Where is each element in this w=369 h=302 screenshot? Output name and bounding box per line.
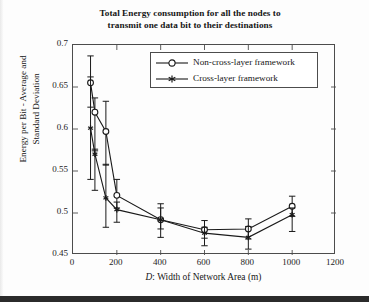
x-tick-label: 0 (52, 257, 92, 267)
legend: Non-cross-layer framework Cross-layer fr… (150, 52, 318, 88)
scan-bottom-band (0, 296, 369, 302)
x-tick-label: 200 (96, 257, 136, 267)
y-tick-label: 0.5 (34, 207, 68, 216)
y-axis-title: Energy per Bit - Average and Standard De… (17, 33, 43, 185)
chart-title-line-2: transmit one data bit to their destinati… (55, 19, 325, 31)
series-filled-star (87, 77, 295, 249)
chart-title-line-1: Total Energy consumption for all the nod… (55, 7, 325, 19)
legend-label-non-cross-layer: Non-cross-layer framework (193, 57, 295, 67)
x-tick-label: 800 (227, 257, 267, 267)
legend-item-non-cross-layer: Non-cross-layer framework (155, 55, 315, 71)
x-tick-label: 400 (140, 257, 180, 267)
figure-canvas: Total Energy consumption for all the nod… (0, 0, 369, 302)
x-tick-label: 1200 (315, 257, 355, 267)
y-axis-title-line-2: Standard Deviation (30, 33, 43, 185)
legend-item-cross-layer: Cross-layer framework (155, 71, 315, 87)
page-title: Total Energy consumption for all the nod… (55, 7, 325, 31)
open-circle-marker-icon (155, 55, 189, 71)
x-axis-title: D: Width of Network Area (m) (72, 272, 335, 282)
x-axis-title-rest: : Width of Network Area (m) (152, 272, 261, 282)
y-axis-title-line-1: Energy per Bit - Average and (17, 33, 30, 185)
scan-edge-artifact (0, 0, 4, 296)
x-tick-label: 1000 (271, 257, 311, 267)
filled-star-marker-icon (155, 71, 189, 87)
legend-label-cross-layer: Cross-layer framework (193, 73, 278, 83)
x-tick-label: 600 (184, 257, 224, 267)
